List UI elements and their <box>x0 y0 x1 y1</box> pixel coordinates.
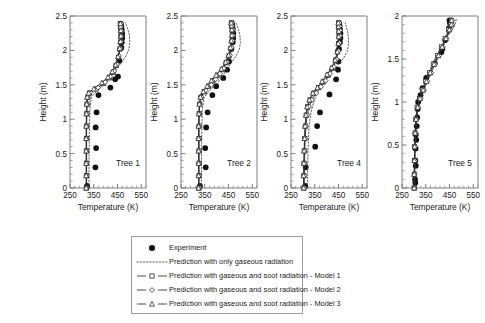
x-tick-label: 350 <box>198 191 212 200</box>
chart-legend: ExperimentPrediction with only gaseous r… <box>131 236 303 314</box>
y-tick-label: 1 <box>173 115 178 124</box>
x-tick-label: 350 <box>419 191 433 200</box>
y-tick-label: 2 <box>394 12 399 21</box>
legend-label: Prediction with only gaseous radiation <box>169 255 293 269</box>
legend-item: Prediction with gaseous and soot radiati… <box>135 269 299 283</box>
y-tick-label: 0 <box>62 184 67 193</box>
y-tick-label: 2.5 <box>56 12 68 21</box>
x-axis-title: Temperature (K) <box>78 202 139 212</box>
y-tick-label: 0 <box>283 184 288 193</box>
series-triangle <box>301 20 341 190</box>
legend-label: Prediction with gaseous and soot radiati… <box>169 283 341 297</box>
legend-item: Experiment <box>135 241 299 255</box>
legend-label: Prediction with gaseous and soot radiati… <box>169 297 341 311</box>
x-tick-label: 450 <box>443 191 457 200</box>
y-tick-label: 1 <box>394 98 399 107</box>
x-tick-label: 450 <box>111 191 125 200</box>
x-tick-label: 350 <box>87 191 101 200</box>
y-axis-title: Height (m) <box>38 82 48 121</box>
legend-label: Experiment <box>169 241 206 255</box>
y-tick-label: 0.5 <box>388 141 400 150</box>
y-tick-label: 0.5 <box>277 150 289 159</box>
chart-panel: 25035045055000.511.52Temperature (K)Heig… <box>368 0 485 228</box>
y-tick-label: 1 <box>62 115 67 124</box>
y-axis-title: Height (m) <box>149 82 159 121</box>
series-experiment <box>412 17 453 185</box>
y-tick-label: 1.5 <box>277 81 289 90</box>
y-tick-label: 0.5 <box>56 150 68 159</box>
y-tick-label: 2 <box>173 46 178 55</box>
x-tick-label: 350 <box>308 191 322 200</box>
legend-key-square-icon <box>135 269 169 283</box>
y-tick-label: 1.5 <box>388 55 400 64</box>
legend-key-filled-circle-icon <box>135 241 169 255</box>
x-axis-title: Temperature (K) <box>299 202 360 212</box>
panel-label: Tree 4 <box>337 158 361 168</box>
x-axis-title: Temperature (K) <box>410 202 471 212</box>
y-tick-label: 1.5 <box>56 81 68 90</box>
figure-caption <box>6 314 461 323</box>
y-tick-label: 2.5 <box>167 12 179 21</box>
y-tick-label: 1 <box>283 115 288 124</box>
legend-label: Prediction with gaseous and soot radiati… <box>169 269 341 283</box>
legend-key-diamond-icon <box>135 283 169 297</box>
panel-label: Tree 2 <box>227 158 251 168</box>
y-axis-title: Height (m) <box>370 82 380 121</box>
legend-item: Prediction with gaseous and soot radiati… <box>135 297 299 311</box>
y-tick-label: 2.5 <box>277 12 289 21</box>
y-tick-label: 2 <box>62 46 67 55</box>
y-tick-label: 2 <box>283 46 288 55</box>
x-tick-label: 450 <box>332 191 346 200</box>
x-tick-label: 550 <box>466 191 480 200</box>
y-tick-label: 1.5 <box>167 81 179 90</box>
legend-key-none-icon <box>135 255 169 269</box>
y-axis-title: Height (m) <box>259 82 269 121</box>
legend-item: Prediction with only gaseous radiation <box>135 255 299 269</box>
legend-key-triangle-icon <box>135 297 169 311</box>
legend-item: Prediction with gaseous and soot radiati… <box>135 283 299 297</box>
y-tick-label: 0.5 <box>167 150 179 159</box>
y-tick-label: 0 <box>394 184 399 193</box>
y-tick-label: 0 <box>173 184 178 193</box>
panel-label: Tree 1 <box>116 158 140 168</box>
x-axis-title: Temperature (K) <box>189 202 250 212</box>
panel-label: Tree 5 <box>448 158 472 168</box>
x-tick-label: 450 <box>222 191 236 200</box>
